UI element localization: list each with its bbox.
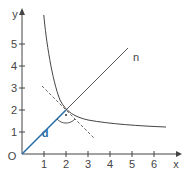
y-axis-label: y xyxy=(12,8,18,20)
x-tick-label: 3 xyxy=(85,158,91,170)
line-n-label: n xyxy=(133,51,139,63)
x-tick-label: 6 xyxy=(151,158,157,170)
y-tick-label: 4 xyxy=(11,60,17,72)
y-tick-label: 1 xyxy=(11,126,17,138)
x-tick-label: 4 xyxy=(107,158,113,170)
x-tick-label: 2 xyxy=(63,158,69,170)
origin-label: O xyxy=(8,150,17,162)
x-axis-label: x xyxy=(173,158,179,170)
x-axis-arrow-icon xyxy=(176,151,182,157)
line-n xyxy=(66,48,128,110)
y-tick-label: 5 xyxy=(11,38,17,50)
right-angle-marker xyxy=(57,119,75,123)
right-angle-dot xyxy=(65,114,67,116)
tangent-line xyxy=(42,86,95,139)
segment-d-label: d xyxy=(42,127,49,139)
y-tick-label: 2 xyxy=(11,104,17,116)
y-tick-label: 3 xyxy=(11,82,17,94)
x-tick-label: 1 xyxy=(41,158,47,170)
x-tick-label: 5 xyxy=(129,158,135,170)
diagram-canvas: 1 2 3 4 5 6 x 1 2 3 4 5 y O n d xyxy=(0,0,185,170)
y-axis-arrow-icon xyxy=(19,8,25,15)
